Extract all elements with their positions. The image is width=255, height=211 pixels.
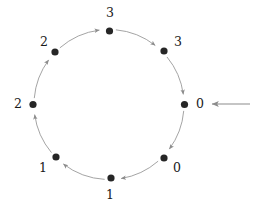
node-upper-left[interactable] <box>51 48 58 55</box>
edge-arc <box>35 115 52 153</box>
node-lower-left-label: 1 <box>39 162 47 175</box>
edge-arc <box>167 57 183 94</box>
node-lower-left[interactable] <box>52 153 59 160</box>
node-right[interactable] <box>181 101 188 108</box>
node-bottom[interactable] <box>107 174 114 181</box>
cycle-graph-canvas <box>0 0 255 211</box>
cycle-diagram: 33001122 <box>0 0 255 211</box>
node-top[interactable] <box>106 27 113 34</box>
node-upper-right[interactable] <box>160 47 167 54</box>
edge-arc <box>121 161 158 178</box>
edge-arc <box>60 30 100 48</box>
edge-arc <box>63 164 104 179</box>
node-upper-left-label: 2 <box>40 36 48 49</box>
node-left-label: 2 <box>14 98 22 111</box>
node-top-label: 3 <box>106 7 114 20</box>
node-lower-right-label: 0 <box>173 162 181 175</box>
node-left[interactable] <box>29 101 36 108</box>
node-upper-right-label: 3 <box>174 36 182 49</box>
node-dot-layer <box>29 27 188 181</box>
node-bottom-label: 1 <box>106 189 114 202</box>
edge-arc <box>169 111 183 149</box>
node-right-label: 0 <box>196 98 204 111</box>
node-lower-right[interactable] <box>160 154 167 161</box>
edge-arc <box>116 30 155 46</box>
edge-arc <box>34 60 48 98</box>
